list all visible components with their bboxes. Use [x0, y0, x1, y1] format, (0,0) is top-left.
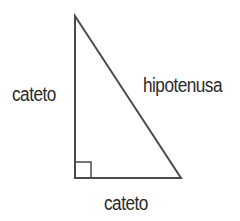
right-triangle	[0, 0, 240, 221]
triangle-outline	[75, 16, 181, 178]
right-angle-marker	[75, 162, 91, 178]
diagram-canvas: cateto hipotenusa cateto	[0, 0, 240, 221]
left-leg-label: cateto	[12, 84, 56, 104]
hypotenuse-label: hipotenusa	[143, 75, 222, 95]
bottom-leg-label: cateto	[104, 193, 148, 213]
